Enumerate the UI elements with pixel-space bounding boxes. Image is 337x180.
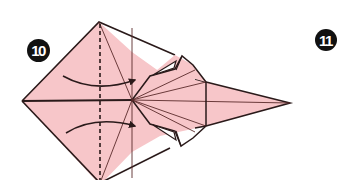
next-step-number-badge: 11 bbox=[315, 29, 337, 51]
step-number-badge: 10 bbox=[27, 39, 50, 62]
